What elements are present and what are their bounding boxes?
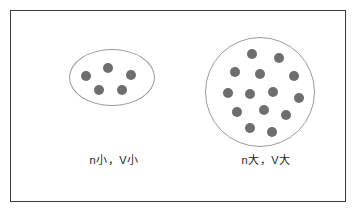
gas-particle-dot xyxy=(289,71,299,81)
gas-particle-dot xyxy=(245,89,255,99)
gas-particle-dot xyxy=(267,127,277,137)
gas-particle-dot xyxy=(281,110,291,120)
gas-container-circle-large xyxy=(205,37,315,147)
gas-particle-dot xyxy=(103,63,113,73)
gas-particle-dot xyxy=(294,93,304,103)
panel-label-large: n大，V大 xyxy=(191,151,341,167)
panel-large-volume: n大，V大 xyxy=(191,19,341,189)
gas-particle-dot xyxy=(255,69,265,79)
gas-particle-dot xyxy=(94,85,104,95)
gas-particle-dot xyxy=(245,123,255,133)
panel-label-small: n小，V小 xyxy=(49,151,179,167)
gas-particle-dot xyxy=(230,67,240,77)
gas-particle-dot xyxy=(259,105,269,115)
gas-particle-dot xyxy=(81,71,91,81)
gas-particle-dot xyxy=(223,88,233,98)
figure-frame: n小，V小 n大，V大 xyxy=(10,10,346,202)
gas-particle-dot xyxy=(117,85,127,95)
gas-particle-dot xyxy=(126,70,136,80)
gas-particle-dot xyxy=(232,107,242,117)
gas-particle-dot xyxy=(268,87,278,97)
gas-particle-dot xyxy=(274,53,284,63)
panel-small-volume: n小，V小 xyxy=(49,29,179,189)
gas-particle-dot xyxy=(247,49,257,59)
figure-root: n小，V小 n大，V大 xyxy=(0,0,356,212)
